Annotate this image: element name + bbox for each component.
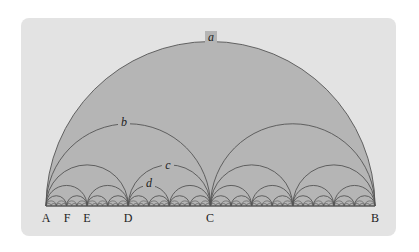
point-label-A: A <box>42 211 51 225</box>
arc-label-d: d <box>146 176 153 190</box>
point-label-F: F <box>64 211 71 225</box>
arc-label-b: b <box>121 115 127 129</box>
arc-label-a: a <box>208 30 214 44</box>
point-label-E: E <box>83 211 90 225</box>
point-label-B: B <box>371 211 379 225</box>
point-label-D: D <box>124 211 133 225</box>
arc-label-c: c <box>165 158 171 172</box>
arc <box>46 42 375 207</box>
point-label-C: C <box>206 211 214 225</box>
semicircle-diagram: abcdAFEDCB <box>0 0 419 252</box>
